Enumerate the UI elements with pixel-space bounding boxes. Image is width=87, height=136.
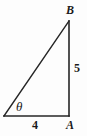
side-length-label-base: 4 <box>32 119 38 131</box>
side-length-label-vertical: 5 <box>74 62 80 74</box>
right-triangle-figure: B A 5 4 θ <box>0 0 87 136</box>
vertex-label-b: B <box>66 4 74 16</box>
triangle-hypotenuse-line <box>4 21 69 116</box>
vertex-label-a: A <box>66 119 74 131</box>
angle-label-theta: θ <box>16 100 22 113</box>
